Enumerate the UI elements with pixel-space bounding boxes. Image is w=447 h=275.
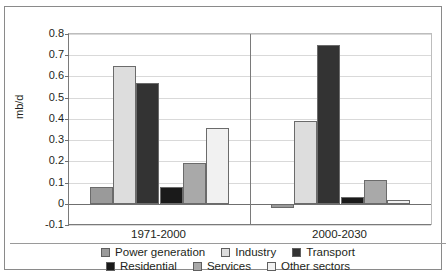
y-axis-tick: [65, 76, 69, 77]
bar-other-sectors-1971-2000: [206, 128, 229, 203]
bar-industry-2000-2030: [294, 121, 317, 204]
bar-services-1971-2000: [183, 163, 206, 203]
legend-row: Power generationIndustryTransport: [101, 246, 355, 258]
plot-area: [68, 33, 432, 225]
gridline: [69, 225, 431, 226]
bar-power-generation-1971-2000: [90, 187, 113, 204]
chart-screenshot: 0.80.70.60.50.40.30.20.10-0.1 mb/d 1971-…: [0, 0, 447, 275]
legend-item-services[interactable]: Services: [193, 260, 251, 272]
y-axis-tick-label: 0.5: [49, 91, 64, 103]
bar-power-generation-2000-2030: [271, 204, 294, 208]
chart-frame: 0.80.70.60.50.40.30.20.10-0.1 mb/d 1971-…: [4, 6, 442, 270]
y-axis-tick: [65, 34, 69, 35]
x-axis-label-1971-2000: 1971-2000: [131, 228, 186, 240]
legend-item-transport[interactable]: Transport: [292, 246, 355, 258]
legend-swatch-icon: [292, 248, 301, 257]
y-axis-tick: [65, 161, 69, 162]
bar-industry-1971-2000: [113, 66, 136, 204]
group-divider: [250, 34, 251, 225]
y-axis-tick-label: 0.4: [49, 112, 64, 124]
bar-residential-2000-2030: [341, 197, 364, 203]
legend-swatch-icon: [101, 248, 110, 257]
y-axis-tick-label: 0.6: [49, 69, 64, 81]
y-axis-tick: [65, 98, 69, 99]
y-axis-tick: [65, 183, 69, 184]
legend-swatch-icon: [267, 262, 276, 271]
y-axis-tick: [65, 225, 69, 226]
y-axis-tick: [65, 140, 69, 141]
bar-services-2000-2030: [364, 180, 387, 203]
legend-label: Transport: [306, 246, 355, 258]
y-axis-tick-label: 0.7: [49, 48, 64, 60]
legend-swatch-icon: [221, 248, 230, 257]
legend-swatch-icon: [193, 262, 202, 271]
y-axis-tick-label: 0.8: [49, 27, 64, 39]
legend-row: ResidentialServicesOther sectors: [106, 260, 350, 272]
y-axis-tick-label: 0: [58, 197, 64, 209]
y-axis-tick-label: 0.1: [49, 176, 64, 188]
legend-label: Residential: [120, 260, 177, 272]
bar-residential-1971-2000: [160, 187, 183, 204]
legend-item-power-generation[interactable]: Power generation: [101, 246, 205, 258]
legend-label: Power generation: [115, 246, 205, 258]
legend-item-other-sectors[interactable]: Other sectors: [267, 260, 350, 272]
legend-label: Other sectors: [281, 260, 350, 272]
legend-item-residential[interactable]: Residential: [106, 260, 177, 272]
bar-transport-1971-2000: [136, 83, 159, 204]
legend-label: Services: [207, 260, 251, 272]
bar-other-sectors-2000-2030: [387, 200, 410, 204]
legend-separator: [10, 243, 446, 244]
y-axis-tick-label: 0.3: [49, 133, 64, 145]
y-axis-title: mb/d: [13, 95, 25, 119]
y-axis-tick: [65, 119, 69, 120]
legend-item-industry[interactable]: Industry: [221, 246, 276, 258]
chart-legend: Power generationIndustryTransportResiden…: [10, 246, 446, 272]
legend-swatch-icon: [106, 262, 115, 271]
x-axis-label-2000-2030: 2000-2030: [312, 228, 367, 240]
y-axis-tick-label: -0.1: [45, 218, 64, 230]
y-axis-labels: 0.80.70.60.50.40.30.20.10-0.1: [5, 33, 64, 225]
legend-label: Industry: [235, 246, 276, 258]
y-axis-tick-label: 0.2: [49, 154, 64, 166]
bar-transport-2000-2030: [317, 45, 340, 204]
y-axis-tick: [65, 55, 69, 56]
